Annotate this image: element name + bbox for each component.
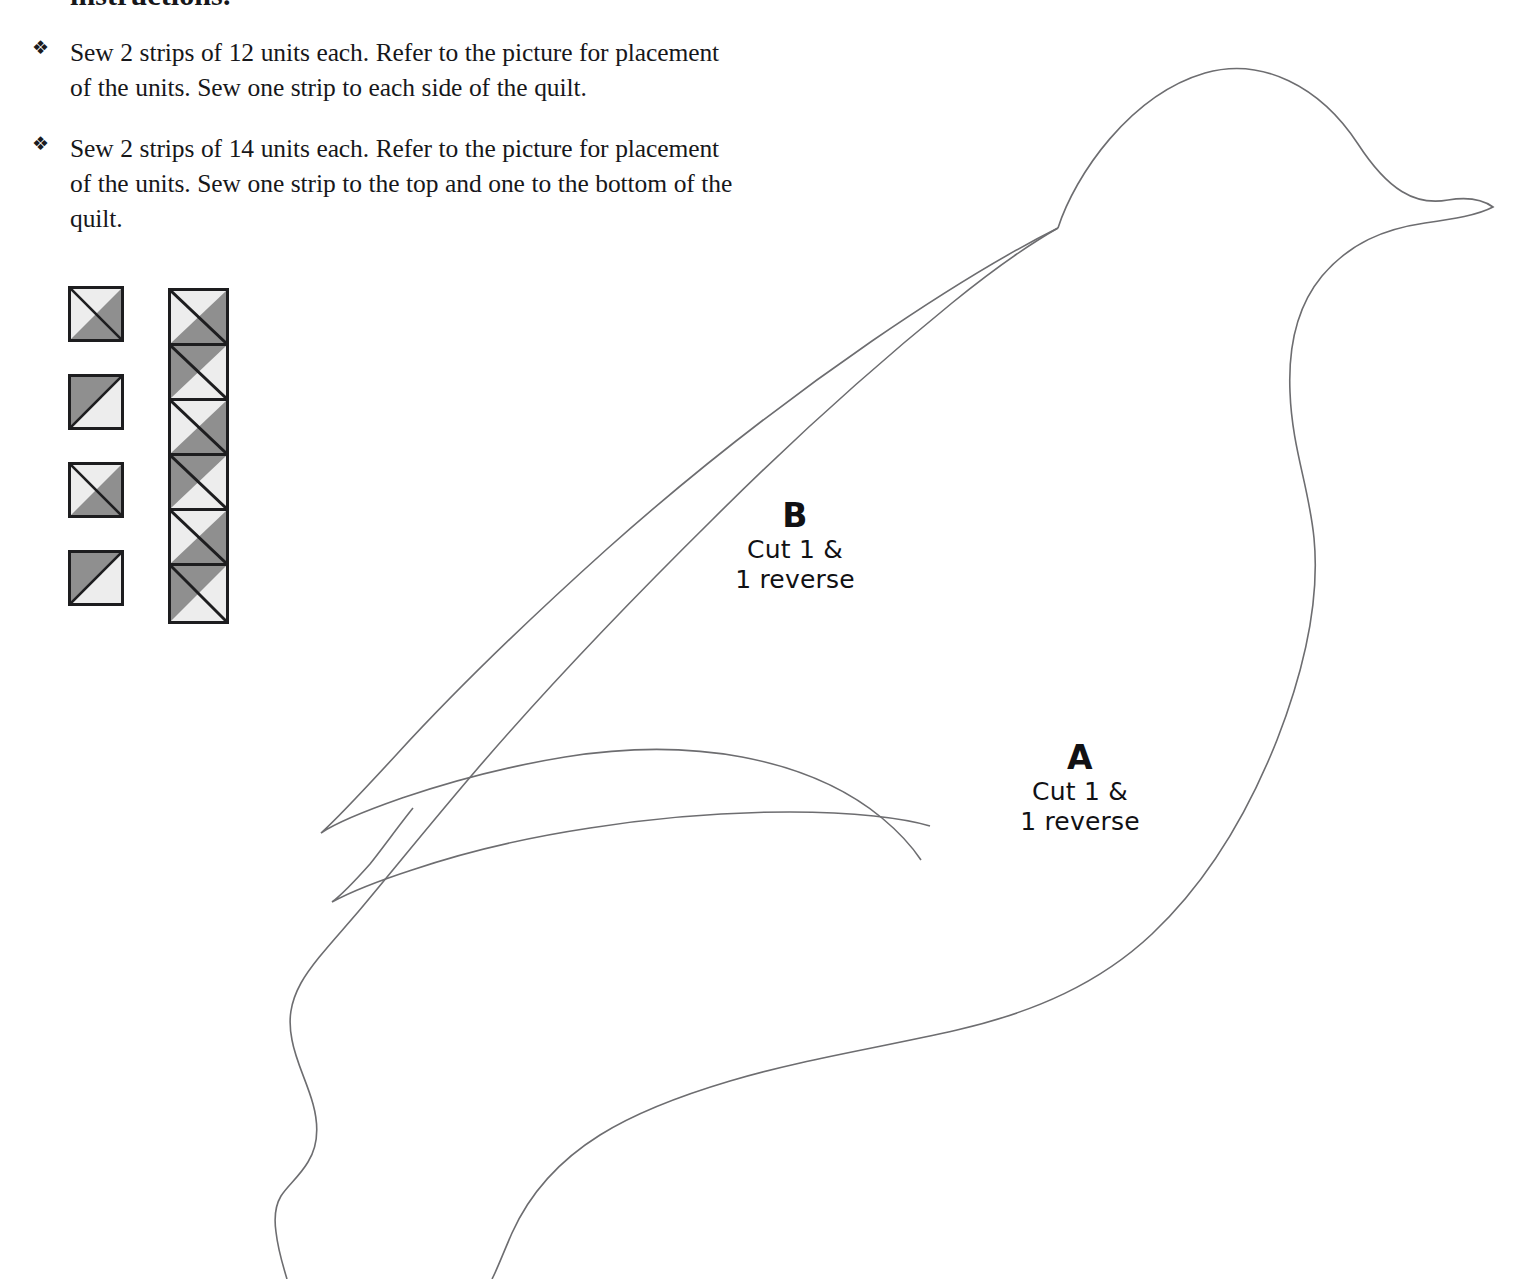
piece-b-cut-line-2: 1 reverse (697, 565, 893, 595)
strip-cell-1 (171, 291, 226, 346)
instruction-item-1: ❖ Sew 2 strips of 12 units each. Refer t… (30, 36, 736, 106)
half-square-triangle-unit-1 (68, 286, 124, 342)
instruction-text: Sew 2 strips of 12 units each. Refer to … (70, 36, 736, 106)
pattern-page: instructions. ❖ Sew 2 strips of 12 units… (0, 0, 1524, 1279)
strip-cell-4 (171, 456, 226, 511)
instruction-list: ❖ Sew 2 strips of 12 units each. Refer t… (30, 36, 736, 263)
strip-cell-3 (171, 401, 226, 456)
piece-a-letter: A (982, 740, 1178, 777)
instruction-text: Sew 2 strips of 14 units each. Refer to … (70, 132, 736, 237)
instruction-item-2: ❖ Sew 2 strips of 14 units each. Refer t… (30, 132, 736, 237)
piece-a-breast-contour (275, 228, 1058, 1279)
piece-b-label: B Cut 1 & 1 reverse (697, 498, 893, 595)
piece-a-cut-line-2: 1 reverse (982, 807, 1178, 837)
strip-cell-2 (171, 346, 226, 401)
strip-cell-6 (171, 566, 226, 621)
half-square-triangle-unit-3 (68, 462, 124, 518)
piece-b-letter: B (697, 498, 893, 535)
half-square-triangle-strip (168, 288, 229, 624)
cutoff-heading-text: instructions. (70, 0, 231, 12)
strip-cell-5 (171, 511, 226, 566)
diamond-floret-bullet-icon: ❖ (32, 38, 49, 57)
piece-a-cut-line-1: Cut 1 & (982, 777, 1178, 807)
piece-b-cut-line-1: Cut 1 & (697, 535, 893, 565)
diamond-floret-bullet-icon: ❖ (32, 134, 49, 153)
half-square-triangle-unit-2 (68, 374, 124, 430)
piece-b-outline (321, 228, 1058, 860)
piece-a-label: A Cut 1 & 1 reverse (982, 740, 1178, 837)
piece-b-lower-edge (332, 808, 930, 902)
half-square-triangle-unit-4 (68, 550, 124, 606)
half-square-triangle-unit-column (68, 286, 124, 638)
